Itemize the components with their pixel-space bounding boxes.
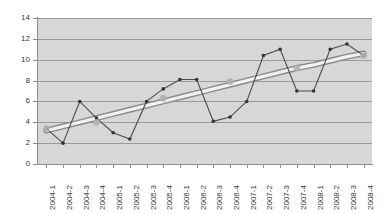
- trendline: [46, 53, 363, 130]
- line-chart: 02468101214 2004-12004-22004-32004-42005…: [0, 0, 389, 214]
- series-layer: [0, 0, 389, 214]
